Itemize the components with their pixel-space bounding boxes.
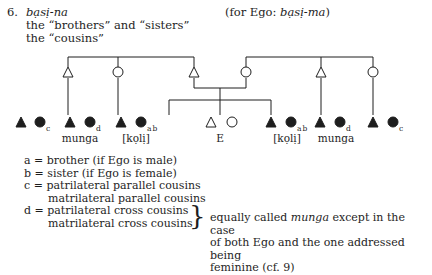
legend-item-d-cont: matrilateral cross cousins [24,218,206,231]
munga-note: equally called munga except in the case … [210,212,432,275]
legend: a = brother (if Ego is male) b = sister … [24,155,206,231]
circle-open-icon [227,117,237,127]
triangle-filled-icon [315,117,325,127]
triangle-open-icon [63,67,73,77]
brace: } [189,203,206,229]
circle-open-icon [113,67,123,77]
triangle-filled-icon [368,117,378,127]
label-munga: munga [62,132,98,144]
subscript-c: c [46,124,50,133]
circle-open-icon [241,67,251,77]
triangle-filled-icon [266,117,276,127]
note-line-1: equally called munga except in the case [210,212,432,237]
circle-filled-icon [286,117,296,127]
label-koli: [kọlị] [122,132,150,144]
triangle-open-icon [206,117,216,127]
label-ego: E [216,132,224,144]
circle-open-icon [368,67,378,77]
circle-filled-icon [136,117,146,127]
label-munga: munga [318,132,354,144]
label-koli: [kọlị] [273,132,301,144]
subscript-c: c [399,124,403,133]
triangle-open-icon [316,67,326,77]
triangle-filled-icon [116,117,126,127]
triangle-filled-icon [65,117,75,127]
note-line-3: feminine (cf. 9) [210,262,432,275]
triangle-filled-icon [16,117,26,127]
circle-filled-icon [335,117,345,127]
circle-filled-icon [388,117,398,127]
circle-filled-icon [35,117,45,127]
circle-filled-icon [85,117,95,127]
triangle-open-icon [189,67,199,77]
note-line-2: of both Ego and the one addressed being [210,237,432,262]
